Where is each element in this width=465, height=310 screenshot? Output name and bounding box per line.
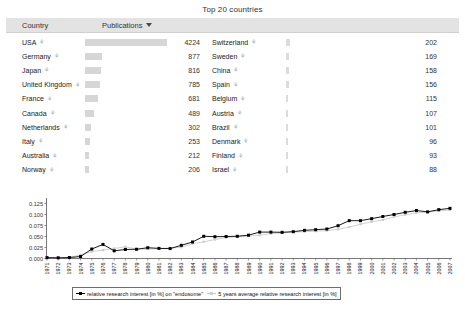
- x-axis-tick-label: 2000: [369, 263, 375, 275]
- x-axis-tick-label: 1995: [313, 263, 319, 275]
- country-label: Switzerland: [212, 39, 248, 46]
- country-name-cell[interactable]: Japan⚘: [6, 67, 82, 74]
- country-name-cell[interactable]: Sweden⚘: [200, 53, 282, 60]
- country-label: Japan: [22, 67, 41, 74]
- publications-value: 101: [397, 124, 437, 131]
- x-axis-tick-label: 1985: [201, 263, 207, 275]
- x-axis-tick-label: 2003: [402, 263, 408, 275]
- x-axis-tick-label: 2006: [436, 263, 442, 275]
- flag-icon: ⚘: [251, 39, 257, 45]
- countries-table: Country Publications USA⚘4224Switzerland…: [6, 18, 459, 177]
- y-axis-tick-labels: 0.0000.0250.0500.0750.1000.125: [29, 201, 43, 262]
- publications-bar-cell: [82, 166, 166, 173]
- country-name-cell[interactable]: Norway⚘: [6, 166, 82, 173]
- x-axis-tick-label: 1993: [290, 263, 296, 275]
- publications-bar-cell: [82, 138, 166, 145]
- series-points-5yr-average: [68, 209, 451, 259]
- publications-value: 302: [166, 124, 200, 131]
- publications-bar: [286, 53, 289, 60]
- publications-bar: [85, 95, 98, 102]
- flag-icon: ⚘: [233, 124, 239, 130]
- country-label: Spain: [212, 81, 230, 88]
- data-point: [370, 217, 373, 220]
- legend-item-endosome: relative research interest [in %] on "en…: [76, 291, 203, 297]
- country-label: USA: [22, 39, 36, 46]
- y-axis-tick-label: 0.050: [29, 234, 43, 240]
- data-point: [169, 247, 172, 250]
- x-axis-tick-label: 1988: [234, 263, 240, 275]
- data-point: [314, 228, 317, 231]
- country-name-cell[interactable]: USA⚘: [6, 39, 82, 46]
- data-point: [91, 251, 93, 253]
- country-label: Brazil: [212, 124, 230, 131]
- data-point: [393, 213, 396, 216]
- data-point: [348, 219, 351, 222]
- data-point: [426, 210, 429, 213]
- data-point: [437, 208, 440, 211]
- publications-bar-cell: [82, 95, 166, 102]
- publications-bar: [286, 124, 288, 131]
- flag-icon: ⚘: [237, 110, 243, 116]
- publications-bar-cell: [82, 53, 166, 60]
- x-axis-tick-label: 1971: [44, 263, 50, 275]
- publications-bar: [286, 138, 288, 145]
- publications-bar: [286, 110, 288, 117]
- publications-value: 206: [166, 166, 200, 173]
- data-point: [79, 255, 82, 258]
- publications-value: 489: [166, 110, 200, 117]
- series-line-endosome: [47, 208, 450, 257]
- publications-bar: [85, 67, 101, 74]
- data-point: [102, 249, 104, 251]
- data-point: [202, 235, 205, 238]
- country-name-cell[interactable]: Canada⚘: [6, 110, 82, 117]
- x-axis-tick-label: 2002: [391, 263, 397, 275]
- publications-bar-cell: [82, 152, 166, 159]
- publications-bar-cell: [82, 110, 166, 117]
- country-name-cell[interactable]: Australia⚘: [6, 152, 82, 159]
- country-name-cell[interactable]: Israel⚘: [200, 166, 282, 173]
- country-label: Australia: [22, 152, 49, 159]
- country-name-cell[interactable]: Switzerland⚘: [200, 39, 282, 46]
- data-point: [213, 235, 216, 238]
- country-name-cell[interactable]: United Kingdom⚘: [6, 81, 82, 88]
- column-header-country[interactable]: Country: [6, 21, 98, 30]
- x-axis-tick-label: 1989: [246, 263, 252, 275]
- country-name-cell[interactable]: Austria⚘: [200, 110, 282, 117]
- table-row: Canada⚘489Austria⚘107: [6, 106, 459, 120]
- country-name-cell[interactable]: Finland⚘: [200, 152, 282, 159]
- legend-marker-endosome-icon: [76, 293, 85, 294]
- country-label: Norway: [22, 166, 46, 173]
- publications-bar: [286, 67, 289, 74]
- flag-icon: ⚘: [49, 167, 55, 173]
- country-name-cell[interactable]: Germany⚘: [6, 53, 82, 60]
- country-name-cell[interactable]: France⚘: [6, 95, 82, 102]
- x-axis-tick-label: 1990: [257, 263, 263, 275]
- country-label: Finland: [212, 152, 235, 159]
- caret-down-icon[interactable]: [146, 23, 152, 27]
- publications-value: 816: [166, 67, 200, 74]
- x-axis-tick-labels: 1971197219731974197519761977197819791980…: [44, 263, 453, 275]
- flag-icon: ⚘: [50, 110, 56, 116]
- country-name-cell[interactable]: China⚘: [200, 67, 282, 74]
- publications-bar: [85, 53, 102, 60]
- y-axis-tick-label: 0.075: [29, 223, 43, 229]
- data-point: [225, 235, 228, 238]
- country-name-cell[interactable]: Italy⚘: [6, 138, 82, 145]
- data-point: [146, 246, 149, 249]
- country-name-cell[interactable]: Netherlands⚘: [6, 124, 82, 131]
- country-label: Canada: [22, 110, 47, 117]
- country-label: Belgium: [212, 95, 237, 102]
- page-title: Top 20 countries: [0, 0, 465, 14]
- country-name-cell[interactable]: Denmark⚘: [200, 138, 282, 145]
- publications-value: 96: [397, 138, 437, 145]
- country-name-cell[interactable]: Belgium⚘: [200, 95, 282, 102]
- country-name-cell[interactable]: Spain⚘: [200, 81, 282, 88]
- column-header-publications[interactable]: Publications: [98, 21, 459, 30]
- publications-value: 4224: [166, 39, 200, 46]
- data-point: [191, 241, 194, 244]
- country-name-cell[interactable]: Brazil⚘: [200, 124, 282, 131]
- data-point: [157, 247, 160, 250]
- data-point: [415, 209, 418, 212]
- flag-icon: ⚘: [39, 39, 45, 45]
- publications-bar: [85, 39, 167, 46]
